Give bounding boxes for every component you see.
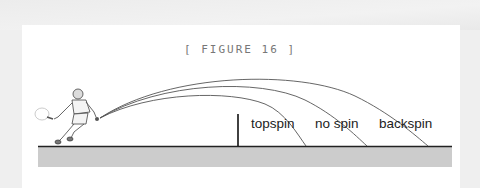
topspin-label: topspin [251,116,295,131]
ball-icon [95,117,99,121]
backspin-label: backspin [379,116,432,131]
backspin-trajectory [100,79,428,146]
court-surface [38,146,452,167]
tennis-spin-diagram: topspin no spin backspin [0,0,480,188]
no-spin-label: no spin [315,116,359,131]
tennis-player-icon [35,89,96,144]
